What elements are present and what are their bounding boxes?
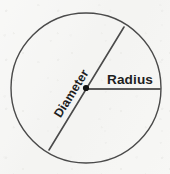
circle-diagram-canvas: Radius Diameter [0,0,170,174]
circle-geometry-figure: Radius Diameter [0,0,170,174]
radius-label: Radius [107,72,153,87]
